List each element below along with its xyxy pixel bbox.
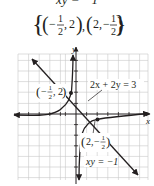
point1-label: ( − 1 2 , 2 ) <box>35 84 66 102</box>
grid <box>18 54 148 180</box>
svg-text:2: 2 <box>102 143 106 151</box>
x-axis-label: x <box>145 116 150 126</box>
svg-text:(: ( <box>81 134 85 149</box>
svg-text:): ) <box>62 84 66 99</box>
svg-text:(: ( <box>36 84 40 99</box>
line-equation-label: 2x + 2y = 3 <box>90 79 136 90</box>
graph: y x ( − 1 2 , 2 ) 2x + 2y = 3 ( 2, − 1 2… <box>0 0 154 186</box>
point-neg-half-2 <box>69 91 73 95</box>
svg-text:2,: 2, <box>86 136 94 147</box>
hyperbola-equation-label: xy = −1 <box>85 156 118 167</box>
svg-text:1: 1 <box>49 84 53 92</box>
line-label-leader <box>88 90 102 101</box>
y-axis-label: y <box>71 44 76 54</box>
point2-label: ( 2, − 1 2 ) <box>80 133 110 152</box>
svg-text:−: − <box>41 86 47 97</box>
point-2-neg-half <box>96 118 100 122</box>
svg-text:1: 1 <box>102 134 106 142</box>
svg-text:−: − <box>94 136 100 147</box>
svg-text:): ) <box>106 134 110 149</box>
svg-text:2: 2 <box>49 93 53 101</box>
